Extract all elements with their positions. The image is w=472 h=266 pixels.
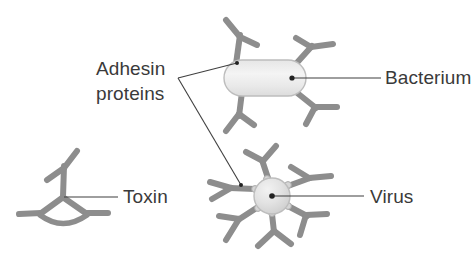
- adhesin-protein-icon: [288, 167, 331, 186]
- label-virus: Virus: [370, 186, 413, 207]
- adhesin-protein-icon: [219, 207, 258, 240]
- adhesin-protein-icon: [226, 92, 254, 131]
- adhesin-protein-diagram: Adhesin proteins Bacterium Virus Toxin: [0, 0, 472, 266]
- label-adhesin-proteins-line1: Adhesin: [96, 58, 165, 79]
- toxin-structure: [19, 151, 108, 224]
- diagram-canvas: Adhesin proteins Bacterium Virus Toxin: [0, 0, 472, 266]
- adhesin-protein-icon: [296, 92, 337, 124]
- adhesin-protein-icon: [226, 20, 257, 64]
- anchor-dot-virus: [269, 193, 275, 199]
- adhesin-protein-icon: [210, 182, 255, 199]
- label-adhesin-proteins-line2: proteins: [96, 83, 164, 104]
- label-bacterium: Bacterium: [385, 67, 471, 88]
- adhesin-protein-icon: [246, 146, 276, 178]
- anchor-dot-bacterium: [289, 75, 294, 80]
- adhesin-protein-icon: [258, 214, 291, 246]
- leader-adhesin-virus: [178, 78, 241, 185]
- anchor-dot-adhesin-virus: [239, 183, 243, 187]
- anchor-dot-adhesin-bacterium: [235, 61, 239, 65]
- adhesin-protein-icon: [294, 38, 333, 66]
- adhesin-protein-icon: [288, 206, 327, 235]
- label-toxin: Toxin: [123, 186, 168, 207]
